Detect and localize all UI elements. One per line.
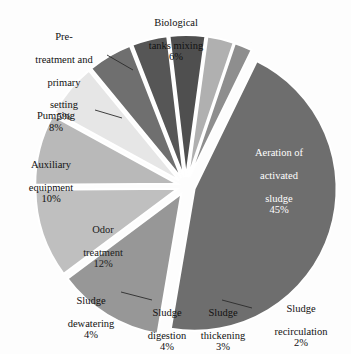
label-line: Sludge bbox=[208, 307, 237, 318]
label-percent: 10% bbox=[8, 193, 94, 204]
slice-label-pumping: Pumping 8% bbox=[24, 99, 88, 144]
label-line: treatment bbox=[83, 247, 123, 258]
label-percent: 6% bbox=[128, 51, 224, 62]
label-percent: 4% bbox=[55, 329, 127, 340]
label-line: Auxiliary bbox=[31, 159, 71, 170]
slice-label-aeration-of-activated-sludge: Aeration of activated sludge 45% bbox=[234, 136, 324, 227]
label-line: Sludge bbox=[152, 307, 181, 318]
label-line: digestion bbox=[148, 330, 187, 341]
label-line: Aeration of bbox=[255, 147, 303, 158]
label-percent: 3% bbox=[189, 341, 257, 352]
label-percent: 45% bbox=[234, 204, 324, 215]
slice-label-auxiliary-equipment: Auxiliary equipment 10% bbox=[8, 148, 94, 216]
label-line: recirculation bbox=[274, 326, 327, 337]
slice-label-sludge-thickening: Sludge thickening 3% bbox=[189, 296, 257, 354]
label-percent: 12% bbox=[66, 258, 140, 269]
label-line: Sludge bbox=[76, 295, 105, 306]
label-line: dewatering bbox=[68, 318, 115, 329]
label-percent: 2% bbox=[258, 337, 344, 348]
label-line: thickening bbox=[201, 330, 245, 341]
label-line: treatment and bbox=[35, 54, 92, 65]
label-line: Biological bbox=[154, 17, 198, 28]
slice-label-biological-tanks-mixing: Biological tanks mixing 6% bbox=[128, 6, 224, 74]
label-percent: 8% bbox=[24, 122, 88, 133]
label-line: primary bbox=[47, 77, 80, 88]
label-line: tanks mixing bbox=[149, 40, 204, 51]
label-line: Odor bbox=[92, 224, 114, 235]
label-line: Pumping bbox=[37, 110, 75, 121]
slice-label-sludge-dewatering: Sludge dewatering 4% bbox=[55, 284, 127, 352]
slice-label-odor-treatment: Odor treatment 12% bbox=[66, 213, 140, 281]
label-line: Sludge bbox=[286, 303, 315, 314]
label-line: equipment bbox=[29, 182, 73, 193]
label-line: Pre- bbox=[55, 31, 73, 42]
label-line: sludge bbox=[265, 193, 292, 204]
label-line: activated bbox=[260, 170, 298, 181]
slice-label-sludge-recirculation: Sludge recirculation 2% bbox=[258, 292, 344, 354]
